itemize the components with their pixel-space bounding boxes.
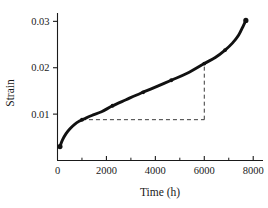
x-tick-label: 0 [55,165,60,176]
data-point-marker [223,48,227,52]
x-tick-label: 4000 [145,165,166,176]
data-point-marker [57,144,62,149]
data-point-marker [80,118,84,122]
y-axis-title: Strain [4,79,16,107]
data-point-marker [141,90,145,94]
data-point-marker [169,78,173,82]
creep-curve-chart: 0.010.020.03 02000400060008000 Time (h) … [0,0,268,208]
chart-canvas: 0.010.020.03 02000400060008000 Time (h) … [0,0,268,208]
y-tick-label: 0.03 [31,16,49,27]
x-tick-label: 8000 [243,165,264,176]
chart-background [0,0,268,208]
y-tick-label: 0.02 [31,62,49,73]
data-point-marker [111,104,115,108]
data-point-marker [243,18,248,23]
x-tick-label: 2000 [96,165,117,176]
data-point-marker [202,62,206,66]
x-axis-title: Time (h) [140,186,180,199]
x-tick-label: 6000 [194,165,215,176]
y-tick-label: 0.01 [31,109,49,120]
